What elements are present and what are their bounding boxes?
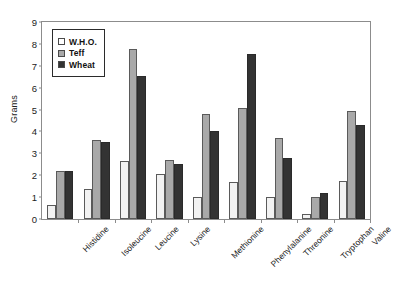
bar bbox=[266, 197, 275, 219]
y-axis-title: Grams bbox=[9, 79, 19, 139]
x-tick-mark bbox=[151, 219, 152, 223]
x-axis-label: Tryptophan bbox=[339, 224, 376, 261]
x-axis-label: Lysine bbox=[188, 224, 212, 248]
x-tick-mark bbox=[334, 219, 335, 223]
x-axis-label: Leucine bbox=[153, 224, 181, 252]
bar bbox=[283, 158, 292, 219]
x-tick-mark bbox=[224, 219, 225, 223]
legend-label: Teff bbox=[69, 48, 84, 58]
bar bbox=[129, 49, 138, 219]
bar-group bbox=[193, 22, 219, 219]
x-tick-mark bbox=[261, 219, 262, 223]
legend-item: Teff bbox=[58, 48, 97, 58]
bar bbox=[311, 197, 320, 219]
bar bbox=[65, 171, 74, 219]
legend-item: Wheat bbox=[58, 60, 97, 70]
legend-label: W.H.O. bbox=[69, 37, 97, 47]
chart-legend: W.H.O.TeffWheat bbox=[52, 29, 105, 77]
bar-group bbox=[156, 22, 182, 219]
x-axis-label: Isoleucine bbox=[119, 224, 153, 258]
bar bbox=[92, 140, 101, 219]
bar bbox=[247, 54, 256, 219]
bar-group bbox=[339, 22, 365, 219]
bar bbox=[229, 182, 238, 219]
x-tick-mark bbox=[78, 219, 79, 223]
x-axis-label: Histidine bbox=[81, 224, 111, 254]
bar bbox=[101, 142, 110, 219]
bar bbox=[174, 164, 183, 219]
bar bbox=[238, 108, 247, 219]
legend-swatch-icon bbox=[58, 50, 65, 57]
plot-area: 0123456789 W.H.O.TeffWheat bbox=[41, 21, 371, 220]
bar bbox=[275, 138, 284, 219]
bar bbox=[137, 76, 146, 219]
bar bbox=[56, 171, 65, 219]
bar bbox=[193, 197, 202, 219]
bar-group bbox=[266, 22, 292, 219]
bar bbox=[347, 111, 356, 219]
bar bbox=[302, 214, 311, 219]
legend-item: W.H.O. bbox=[58, 37, 97, 47]
bar bbox=[356, 125, 365, 219]
legend-swatch-icon bbox=[58, 61, 65, 68]
legend-label: Wheat bbox=[69, 60, 95, 70]
bar bbox=[165, 160, 174, 219]
bar-group bbox=[229, 22, 255, 219]
legend-swatch-icon bbox=[58, 38, 65, 45]
bar bbox=[84, 189, 93, 219]
bar bbox=[202, 114, 211, 219]
bar-group bbox=[120, 22, 146, 219]
bar bbox=[339, 181, 348, 219]
bar bbox=[47, 205, 56, 219]
x-tick-mark bbox=[370, 219, 371, 223]
x-tick-mark bbox=[188, 219, 189, 223]
bar bbox=[210, 131, 219, 219]
x-tick-mark bbox=[115, 219, 116, 223]
bar bbox=[120, 161, 129, 219]
bar bbox=[156, 174, 165, 219]
bar bbox=[320, 193, 329, 219]
x-axis-label: Methionine bbox=[229, 224, 265, 260]
x-tick-mark bbox=[297, 219, 298, 223]
bar-group bbox=[302, 22, 328, 219]
